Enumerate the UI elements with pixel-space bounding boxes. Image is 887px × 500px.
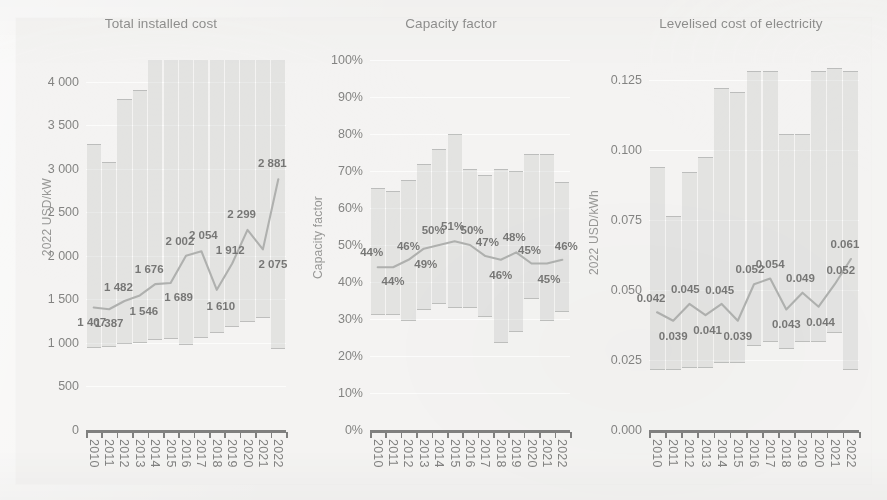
data-label-2014: 1 676: [135, 263, 164, 275]
x-axis-label-2017: 2017: [478, 439, 492, 468]
x-axis-tickmark: [86, 432, 88, 438]
x-axis-label-2018: 2018: [494, 439, 508, 468]
data-label-2012: 1 482: [104, 281, 133, 293]
x-axis-tickmark: [385, 432, 387, 438]
x-axis-label-2016: 2016: [747, 439, 761, 468]
x-axis-tickmark: [117, 432, 119, 438]
y-axis-tick-label: 2 500: [48, 205, 86, 219]
data-label-2017: 0.054: [756, 258, 785, 270]
panel-title: Capacity factor: [306, 16, 596, 31]
x-axis-label-2021: 2021: [540, 439, 554, 468]
data-label-2018: 0.043: [772, 318, 801, 330]
x-axis-label-2012: 2012: [117, 439, 131, 468]
data-label-2022: 2 881: [258, 157, 287, 169]
data-label-2022: 46%: [555, 240, 578, 252]
x-axis-tickmark: [649, 432, 651, 438]
x-axis-label-2017: 2017: [763, 439, 777, 468]
x-axis-tickmark: [665, 432, 667, 438]
data-label-2019: 0.049: [786, 272, 815, 284]
data-label-2013: 1 546: [129, 305, 158, 317]
x-axis-label-2021: 2021: [256, 439, 270, 468]
x-axis-tickmark: [843, 432, 845, 438]
x-axis-tickmark: [778, 432, 780, 438]
y-axis-tick-label: 90%: [338, 90, 370, 104]
x-axis-tickmark: [148, 432, 150, 438]
y-axis-tick-label: 0.100: [611, 143, 649, 157]
x-axis-tickmark: [746, 432, 748, 438]
data-label-2018: 1 610: [206, 300, 235, 312]
x-axis-label-2014: 2014: [148, 439, 162, 468]
x-axis-tickmark: [224, 432, 226, 438]
data-label-2020: 45%: [518, 244, 541, 256]
x-axis-tickmark: [240, 432, 242, 438]
panel-levelised-cost-of-electricity: Levelised cost of electricity 2022 USD/k…: [596, 0, 886, 466]
scanned-page-background: Total installed cost 2022 USD/kW 05001 0…: [0, 0, 887, 500]
x-axis-tickmark: [416, 432, 418, 438]
x-axis-tickmark: [101, 432, 103, 438]
x-axis-tickmark: [827, 432, 829, 438]
x-axis-label-2013: 2013: [133, 439, 147, 468]
x-axis-tickmark: [447, 432, 449, 438]
plot-area: 0.0000.0250.0500.0750.1000.1250.0420.039…: [649, 60, 859, 430]
x-axis-label-2019: 2019: [795, 439, 809, 468]
x-axis-tickmark: [508, 432, 510, 438]
data-label-2018: 46%: [489, 269, 512, 281]
x-axis-label-2021: 2021: [828, 439, 842, 468]
x-axis-tickmark: [194, 432, 196, 438]
x-axis-label-2019: 2019: [225, 439, 239, 468]
x-axis-label-2013: 2013: [417, 439, 431, 468]
x-axis-tickmark: [762, 432, 764, 438]
x-axis-tickmark: [794, 432, 796, 438]
x-axis-tickmark: [539, 432, 541, 438]
data-label-2010: 44%: [360, 246, 383, 258]
panel-title: Total installed cost: [16, 16, 306, 31]
data-label-2011: 1 387: [95, 317, 124, 329]
x-axis-tickmark: [570, 432, 572, 438]
data-label-2016: 50%: [460, 224, 483, 236]
x-axis-label-2018: 2018: [210, 439, 224, 468]
y-axis-label: Capacity factor: [311, 196, 325, 279]
y-axis-tick-label: 3 500: [48, 118, 86, 132]
x-axis-tickmark: [163, 432, 165, 438]
x-axis-label-2010: 2010: [650, 439, 664, 468]
y-axis-tick-label: 0.025: [611, 353, 649, 367]
data-label-2021: 45%: [537, 273, 560, 285]
x-axis-label-2022: 2022: [844, 439, 858, 468]
data-label-2022: 0.061: [831, 238, 860, 250]
data-label-2021: 2 075: [259, 258, 288, 270]
data-label-2012: 0.045: [671, 283, 700, 295]
y-axis-label: 2022 USD/kWh: [587, 190, 601, 275]
data-label-2011: 0.039: [659, 330, 688, 342]
x-axis-label-2013: 2013: [699, 439, 713, 468]
data-label-2013: 49%: [414, 258, 437, 270]
y-axis-tick-label: 3 000: [48, 162, 86, 176]
y-axis-tick-label: 10%: [338, 386, 370, 400]
y-axis-tick-label: 70%: [338, 164, 370, 178]
x-axis-tickmark: [478, 432, 480, 438]
x-axis-tickmark: [401, 432, 403, 438]
x-axis-tickmark: [524, 432, 526, 438]
plot-area: 0%10%20%30%40%50%60%70%80%90%100%44%44%4…: [370, 60, 570, 430]
x-axis-label-2020: 2020: [241, 439, 255, 468]
data-label-2019: 1 912: [216, 244, 245, 256]
y-axis-tick-label: 500: [58, 379, 86, 393]
x-axis-label-2010: 2010: [371, 439, 385, 468]
x-axis-tickmark: [555, 432, 557, 438]
x-axis-label-2016: 2016: [463, 439, 477, 468]
data-label-2013: 0.041: [693, 324, 722, 336]
panel-capacity-factor: Capacity factor Capacity factor 0%10%20%…: [306, 0, 596, 466]
x-axis-tickmark: [178, 432, 180, 438]
x-axis-label-2015: 2015: [731, 439, 745, 468]
x-axis-label-2019: 2019: [509, 439, 523, 468]
x-axis-label-2015: 2015: [448, 439, 462, 468]
x-axis-label-2011: 2011: [102, 439, 116, 467]
x-axis-label-2016: 2016: [179, 439, 193, 468]
data-label-2014: 0.045: [705, 284, 734, 296]
y-axis-tick-label: 1 500: [48, 292, 86, 306]
data-label-2017: 47%: [476, 236, 499, 248]
x-axis-label-2020: 2020: [525, 439, 539, 468]
data-label-2011: 44%: [382, 275, 405, 287]
data-label-2010: 0.042: [637, 292, 666, 304]
x-axis-label-2017: 2017: [194, 439, 208, 468]
x-axis-tickmark: [271, 432, 273, 438]
